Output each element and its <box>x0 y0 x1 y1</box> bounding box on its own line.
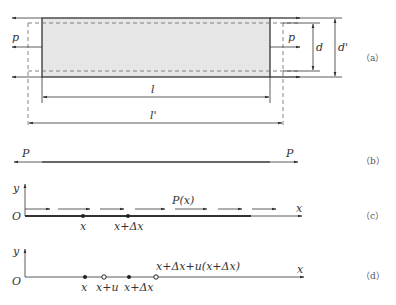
label-y: y <box>12 245 20 258</box>
label-p-right: p <box>288 31 295 44</box>
label-point-x-u: x+u <box>96 281 119 294</box>
panel-c: y O x P(x) x x+Δx （c） <box>12 182 384 233</box>
elasticity-diagram: p p d d' l l' （a） P P （b） y O x <box>0 0 396 305</box>
label-P-right: P <box>285 147 294 160</box>
label-point-x: x <box>81 281 88 294</box>
point-x-dx-u <box>154 275 158 279</box>
label-x-axis: x <box>296 202 303 215</box>
label-l: l <box>151 83 155 96</box>
point-x <box>81 214 85 218</box>
label-d: d <box>316 41 323 54</box>
label-l-prime: l' <box>150 109 157 122</box>
point-x <box>83 275 87 279</box>
point-x-dx <box>127 275 131 279</box>
panel-b: P P （b） <box>14 147 385 166</box>
caption-d: （d） <box>361 271 385 281</box>
label-P-left: P <box>21 147 30 160</box>
bar-body <box>42 18 270 77</box>
point-x-u <box>102 275 106 279</box>
panel-a: p p d d' l l' （a） <box>12 18 384 127</box>
label-Px: P(x) <box>171 194 194 207</box>
label-x-axis: x <box>297 263 304 276</box>
label-point-x-dx: x+Δx <box>114 220 144 233</box>
right-force-arrows <box>270 18 342 77</box>
caption-b: （b） <box>361 156 385 166</box>
point-x-dx <box>126 214 130 218</box>
label-d-prime: d' <box>338 41 348 54</box>
label-point-x-dx-u: x+Δx+u(x+Δx) <box>156 260 240 273</box>
label-point-x: x <box>80 220 87 233</box>
label-point-x-dx: x+Δx <box>124 281 154 294</box>
label-y: y <box>12 182 20 195</box>
left-force-arrows <box>12 18 42 77</box>
label-O: O <box>12 210 21 223</box>
caption-a: （a） <box>361 53 384 63</box>
panel-d: y O x x x+u x+Δx x+Δx+u(x+Δx) （d） <box>12 245 385 294</box>
label-O: O <box>12 275 21 288</box>
label-p-left: p <box>12 31 19 44</box>
caption-c: （c） <box>361 211 384 221</box>
